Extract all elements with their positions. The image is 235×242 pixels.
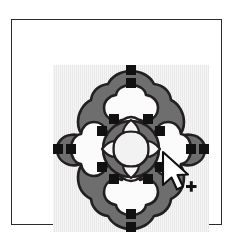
selection-handle[interactable] — [155, 162, 165, 172]
selection-handle[interactable] — [126, 209, 136, 219]
quatrefoil-artwork[interactable] — [53, 65, 209, 232]
selection-handle[interactable] — [155, 126, 165, 136]
center-disc — [113, 131, 149, 167]
selection-handle[interactable] — [126, 65, 136, 75]
selection-handle[interactable] — [109, 114, 119, 124]
selection-handle[interactable] — [186, 144, 196, 154]
ornament-center-assembly[interactable] — [102, 120, 160, 178]
selection-handle[interactable] — [53, 144, 63, 154]
selection-handle[interactable] — [109, 174, 119, 184]
selection-handle[interactable] — [97, 126, 107, 136]
drawing-canvas[interactable] — [53, 65, 209, 232]
screenshot-page — [0, 0, 235, 242]
selection-handle[interactable] — [126, 78, 136, 88]
selection-handle[interactable] — [143, 174, 153, 184]
selection-handle[interactable] — [199, 144, 209, 154]
selection-handle[interactable] — [143, 114, 153, 124]
selection-handle[interactable] — [97, 162, 107, 172]
page-frame-border — [11, 19, 222, 225]
selection-handle[interactable] — [126, 222, 136, 232]
selection-handle[interactable] — [66, 144, 76, 154]
